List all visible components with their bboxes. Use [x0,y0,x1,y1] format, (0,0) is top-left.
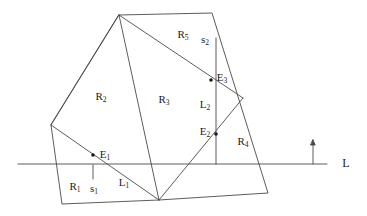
region-label-r3: R3 [158,94,169,105]
segment-label-l1: L1 [119,177,129,188]
geometry-figure: R1 R2 R3 R4 R5 E1 E2 E3 s1 s2 L1 L2 L [0,0,367,216]
edge-point-label-e1: E1 [100,149,110,160]
subscript: 2 [205,38,209,47]
line-label-l: L [342,157,349,169]
subscript: 3 [166,98,170,107]
subscript: 2 [103,95,107,104]
subscript: 1 [125,181,129,190]
subscript: 5 [185,33,189,42]
subscript: 2 [206,130,210,139]
subscript: 3 [223,76,227,85]
region-label-r1: R1 [69,181,80,192]
chord-left-to-bottom [51,125,159,200]
segment-label-l2: L2 [200,99,210,110]
region-label-r5: R5 [177,29,188,40]
chord-top-to-bottom [119,15,159,200]
region-label-r2: R2 [95,91,106,102]
subscript: 4 [245,140,249,149]
chord-top-to-left [51,15,119,125]
point-marker-e1 [91,153,95,157]
region-label-r4: R4 [237,136,248,147]
subscript: 1 [94,187,98,196]
segment-label-s1: s1 [90,183,98,194]
edge-point-label-e2: E2 [200,126,210,137]
point-marker-e3 [209,78,213,82]
subscript: 2 [206,103,210,112]
direction-arrow-head [311,140,315,145]
point-marker-e2 [214,132,218,136]
subscript: 1 [106,153,110,162]
subscript: 1 [77,185,81,194]
edge-point-label-e3: E3 [217,72,227,83]
segment-label-s2: s2 [201,34,209,45]
chord-bottom-to-right [159,98,243,200]
